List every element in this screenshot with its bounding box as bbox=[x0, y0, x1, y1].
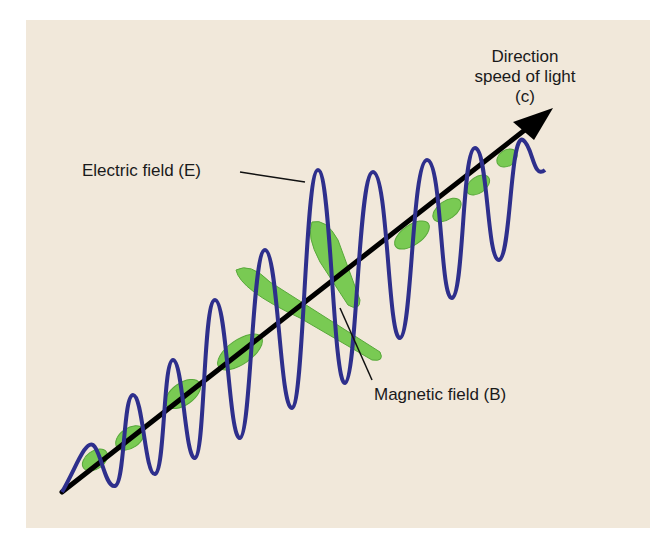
direction-label-line3: (c) bbox=[455, 87, 595, 107]
direction-label-line1: Direction bbox=[455, 47, 595, 67]
electric-leader-line bbox=[240, 172, 305, 182]
direction-label-line2: speed of light bbox=[455, 67, 595, 87]
magnetic-field-label: Magnetic field (B) bbox=[374, 385, 506, 405]
direction-label: Direction speed of light (c) bbox=[455, 47, 595, 107]
electric-field-label: Electric field (E) bbox=[82, 161, 201, 181]
